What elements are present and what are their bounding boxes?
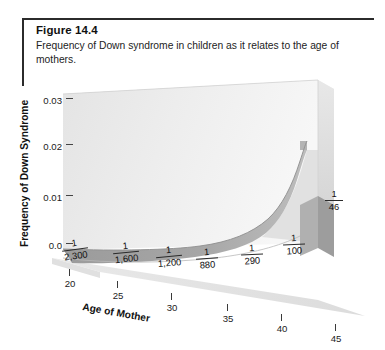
y-tick-0.03: 0.03 bbox=[28, 95, 62, 106]
y-tick-label: 0.03 bbox=[43, 95, 62, 106]
fraction-denominator: 290 bbox=[241, 255, 263, 266]
fraction-denominator: 880 bbox=[196, 259, 219, 270]
x-tick-label: 35 bbox=[223, 313, 234, 324]
data-label-age-30: 1 1,200 bbox=[155, 244, 183, 268]
y-tick-label: 0.01 bbox=[43, 192, 62, 203]
y-tick-mark bbox=[66, 98, 73, 99]
y-tick-0.02: 0.02 bbox=[28, 141, 62, 152]
x-tick-25: 25 bbox=[107, 290, 129, 301]
fraction-denominator: 1,200 bbox=[156, 256, 183, 268]
data-label-age-33: 1 880 bbox=[195, 246, 218, 270]
x-tick-30: 30 bbox=[161, 302, 183, 313]
y-tick-mark bbox=[66, 195, 73, 196]
x-tick-label: 40 bbox=[277, 323, 288, 334]
y-tick-label: 0.02 bbox=[43, 141, 62, 152]
x-tick-mark bbox=[117, 281, 118, 288]
data-label-age-25: 1 1,600 bbox=[112, 240, 140, 265]
x-tick-label: 45 bbox=[331, 333, 342, 344]
y-tick-0.0: 0.0 bbox=[28, 240, 62, 251]
data-label-age-20: 1 2,300 bbox=[61, 236, 90, 262]
fraction-numerator: 1 bbox=[325, 189, 343, 199]
data-label-age-41: 1 100 bbox=[282, 232, 305, 255]
data-label-age-37: 1 290 bbox=[240, 242, 263, 265]
x-tick-45: 45 bbox=[325, 333, 347, 344]
x-tick-label: 20 bbox=[65, 278, 76, 289]
fraction-numerator: 1 bbox=[195, 246, 218, 257]
x-tick-label: 25 bbox=[113, 290, 124, 301]
x-tick-40: 40 bbox=[271, 323, 293, 334]
x-tick-mark bbox=[281, 314, 282, 321]
fraction-denominator: 46 bbox=[325, 202, 343, 212]
data-label-age-45: 1 46 bbox=[325, 189, 343, 211]
y-tick-mark bbox=[66, 144, 73, 145]
y-axis-title: Frequency of Down Syndrome bbox=[19, 94, 30, 254]
x-tick-mark bbox=[69, 269, 70, 276]
fraction-denominator: 100 bbox=[283, 245, 305, 256]
x-tick-label: 30 bbox=[167, 302, 178, 313]
x-tick-mark bbox=[335, 324, 336, 331]
x-tick-mark bbox=[227, 304, 228, 311]
y-tick-0.01: 0.01 bbox=[28, 192, 62, 203]
x-tick-20: 20 bbox=[59, 278, 81, 289]
x-tick-mark bbox=[171, 293, 172, 300]
fraction-numerator: 1 bbox=[240, 242, 262, 253]
fraction-numerator: 1 bbox=[282, 232, 304, 243]
x-tick-35: 35 bbox=[217, 313, 239, 324]
figure-container: Figure 14.4 Frequency of Down syndrome i… bbox=[0, 0, 385, 350]
chart-3d-scene bbox=[0, 0, 385, 350]
